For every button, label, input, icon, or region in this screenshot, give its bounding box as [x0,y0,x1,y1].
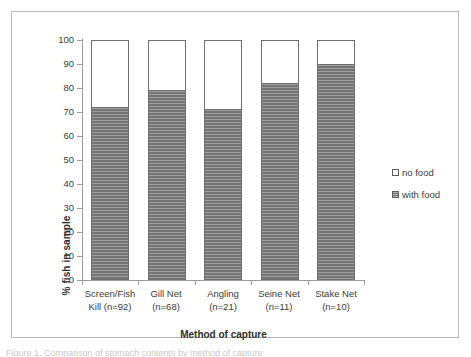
chart-legend: no food with food [392,167,468,211]
legend-label-with-food: with food [402,189,440,200]
y-tick-label: 70 [42,107,74,117]
y-axis-title-wrapper: % fish in sample [36,132,37,133]
bar-segment-no-food[interactable] [317,40,355,65]
y-tick-label: 60 [42,131,74,141]
y-tick-label: 90 [42,59,74,69]
hatched-square-icon [392,191,399,198]
bar-column-seine-net[interactable] [261,40,299,280]
legend-item-no-food[interactable]: no food [392,167,468,178]
x-tick-mark [251,280,252,285]
y-tick-label: 100 [42,35,74,45]
x-axis-line [82,280,365,281]
x-tick-mark [138,280,139,285]
bar-column-stake-net[interactable] [317,40,355,280]
legend-item-with-food[interactable]: with food [392,189,468,200]
x-axis-title: Method of capture [82,329,365,340]
y-axis-title: % fish in sample [61,186,72,326]
empty-square-icon [392,169,399,176]
bar-segment-with-food[interactable] [148,90,186,280]
x-tick-mark [308,280,309,285]
cat-line-2: (n=10) [299,301,373,314]
bar-segment-with-food[interactable] [317,64,355,280]
cat-line-1: Stake Net [315,288,357,299]
cat-line-1: Angling [207,288,239,299]
bar-segment-with-food[interactable] [204,109,242,280]
x-category-label-stake-net: Stake Net (n=10) [299,288,373,313]
x-tick-mark [82,280,83,285]
cat-line-1: Screen/Fish [85,288,136,299]
bar-segment-with-food[interactable] [261,83,299,280]
cat-line-1: Gill Net [150,288,181,299]
bar-column-gill-net[interactable] [148,40,186,280]
bar-segment-no-food[interactable] [261,40,299,84]
plot-area [82,40,364,280]
x-tick-mark [195,280,196,285]
cat-line-1: Seine Net [258,288,300,299]
bar-segment-no-food[interactable] [91,40,129,108]
figure-frame: 100 90 80 70 60 50 40 30 20 10 0 [11,11,459,338]
bar-column-angling[interactable] [204,40,242,280]
y-tick-label: 50 [42,155,74,165]
legend-label-no-food: no food [402,167,434,178]
bar-segment-no-food[interactable] [148,40,186,91]
bar-column-screen-fish-kill[interactable] [91,40,129,280]
bar-segment-no-food[interactable] [204,40,242,110]
y-tick-label: 80 [42,83,74,93]
x-tick-mark [364,280,365,285]
figure-caption-partial: Figure 1. Comparison of stomach contents… [6,349,306,356]
bar-segment-with-food[interactable] [91,107,129,280]
